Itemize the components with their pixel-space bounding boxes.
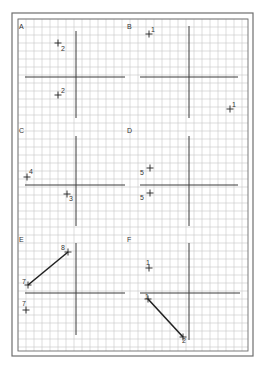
point-label: 1 xyxy=(146,259,150,266)
point-label: 4 xyxy=(29,168,33,175)
panel-label: D xyxy=(127,127,132,134)
point-label: 3 xyxy=(69,195,73,202)
panel-label: E xyxy=(19,236,24,243)
panel-label: B xyxy=(127,23,132,30)
point-label: 2 xyxy=(182,337,186,344)
panel-label: C xyxy=(19,127,24,134)
point-label: 1 xyxy=(145,293,149,300)
point-label: 1 xyxy=(232,101,236,108)
point-label: 5 xyxy=(140,194,144,201)
point-label: 8 xyxy=(61,244,65,251)
panel-label: F xyxy=(127,236,131,243)
point-label: 7 xyxy=(22,300,26,307)
point-label: 2 xyxy=(61,87,65,94)
panel-label: A xyxy=(19,23,24,30)
point-label: 2 xyxy=(61,45,65,52)
coordinate-grid-diagram: A22B11C43D55E787F112 xyxy=(0,0,263,369)
point-label: 7 xyxy=(22,278,26,285)
point-label: 5 xyxy=(140,169,144,176)
point-label: 1 xyxy=(151,26,155,33)
graph-paper-sheet: A22B11C43D55E787F112 xyxy=(0,0,263,369)
